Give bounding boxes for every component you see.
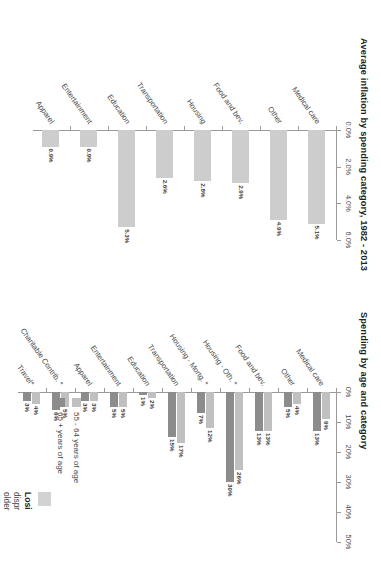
bar-value-label: 13% xyxy=(265,433,272,445)
chart-average-inflation: Average inflation by spending category, … xyxy=(11,18,371,273)
axis-tick-label: 40% xyxy=(344,505,353,520)
axis-tick-label: 4.0% xyxy=(344,195,353,212)
caption-body: disprolderdifferhabitin thc xyxy=(0,492,22,570)
bar xyxy=(81,392,89,401)
bar xyxy=(322,392,330,419)
axis-tick-label: 10% xyxy=(344,415,353,430)
axis-tick xyxy=(337,130,341,131)
bar xyxy=(23,392,31,401)
bar xyxy=(90,392,98,401)
category-label: Food and bev. xyxy=(209,307,269,388)
bar xyxy=(110,392,118,407)
axis-tick xyxy=(337,482,341,483)
bar xyxy=(226,392,234,482)
axis-tick-label: 0% xyxy=(344,387,353,398)
category-tick xyxy=(191,388,192,392)
category-tick xyxy=(75,388,76,392)
bar xyxy=(206,392,214,428)
category-label: Education xyxy=(93,307,153,388)
axis-line xyxy=(336,392,337,542)
bar xyxy=(32,392,40,404)
axis-tick-label: 2.0% xyxy=(344,158,353,175)
category-tick xyxy=(108,126,109,130)
axis-tick-label: 6.0% xyxy=(344,232,353,249)
bar xyxy=(139,392,147,395)
bar-value-label: 0.9% xyxy=(48,149,55,163)
category-tick xyxy=(46,388,47,392)
bar-value-label: 2.6% xyxy=(162,180,169,194)
bar-value-label: 4.9% xyxy=(276,222,283,236)
bar-value-label: 5% xyxy=(111,409,118,418)
bar xyxy=(119,392,127,407)
legend-item: 55 - 64 years of age xyxy=(72,398,81,483)
bar-value-label: 3% xyxy=(82,403,89,412)
bar xyxy=(195,130,212,181)
bar xyxy=(43,130,60,147)
bar-value-label: 5% xyxy=(120,409,127,418)
category-label: Transportation xyxy=(122,307,182,388)
category-tick xyxy=(104,388,105,392)
category-tick xyxy=(249,388,250,392)
bar-value-label: 15% xyxy=(169,439,176,451)
category-tick xyxy=(222,126,223,130)
category-axis-line xyxy=(33,130,337,131)
bar-value-label: 12% xyxy=(207,430,214,442)
bar-value-label: 26% xyxy=(236,472,243,484)
bar xyxy=(293,392,301,404)
bar-value-label: 1% xyxy=(140,397,147,406)
category-tick xyxy=(307,388,308,392)
axis-tick xyxy=(337,167,341,168)
category-tick xyxy=(278,388,279,392)
legend-label: 55 - 64 years of age xyxy=(72,412,81,483)
bar-value-label: 13% xyxy=(314,433,321,445)
bar xyxy=(81,130,98,147)
chart-title-spending-by-age: Spending by age and category xyxy=(359,312,369,450)
caption-swatch-icon xyxy=(38,492,51,506)
bar xyxy=(177,392,185,443)
bar xyxy=(271,130,288,220)
bar-value-label: 9% xyxy=(323,421,330,430)
bar xyxy=(309,130,326,224)
bar xyxy=(119,130,136,227)
category-tick xyxy=(298,126,299,130)
category-label: Entertainment xyxy=(64,307,124,388)
legend-item: 65 + years of age xyxy=(56,398,65,483)
category-label: Apparel xyxy=(35,307,95,388)
bar xyxy=(235,392,243,470)
legend-spending-by-age: 55 - 64 years of age65 + years of age xyxy=(49,398,81,483)
bar-value-label: 4% xyxy=(33,406,40,415)
category-label: Other xyxy=(238,307,298,388)
legend-swatch-icon xyxy=(56,398,65,407)
bar-value-label: 0.9% xyxy=(86,149,93,163)
bar xyxy=(255,392,263,431)
legend-label: 65 + years of age xyxy=(56,412,65,474)
category-tick xyxy=(220,388,221,392)
category-tick xyxy=(260,126,261,130)
bar-value-label: 30% xyxy=(227,484,234,496)
category-label: Housing - Oth. * xyxy=(180,307,240,388)
category-tick xyxy=(336,388,337,392)
axis-line xyxy=(336,130,337,240)
bar-value-label: 2% xyxy=(149,400,156,409)
bar-value-label: 5.3% xyxy=(124,229,131,243)
axis-tick xyxy=(337,392,341,393)
legend-swatch-icon xyxy=(72,398,81,407)
category-tick xyxy=(133,388,134,392)
axis-tick xyxy=(337,240,341,241)
axis-tick xyxy=(337,542,341,543)
scanned-page: Average inflation by spending category, … xyxy=(0,0,381,584)
bar-value-label: 5% xyxy=(285,409,292,418)
axis-tick-label: 50% xyxy=(344,535,353,550)
chart-title-average-inflation: Average inflation by spending category, … xyxy=(359,38,369,271)
bar-value-label: 13% xyxy=(256,433,263,445)
bar-value-label: 2.8% xyxy=(200,183,207,197)
bar xyxy=(284,392,292,407)
caption-line: dispr xyxy=(12,492,23,570)
category-label: Charitable Contrib. * xyxy=(6,307,66,388)
axis-tick-label: 30% xyxy=(344,475,353,490)
axis-tick xyxy=(337,452,341,453)
caption-line: older xyxy=(1,492,12,570)
category-tick xyxy=(70,126,71,130)
axis-tick xyxy=(337,422,341,423)
bar xyxy=(148,392,156,398)
